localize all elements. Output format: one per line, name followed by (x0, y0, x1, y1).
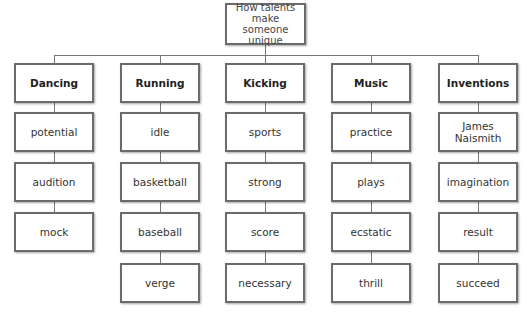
column-header-dancing: Dancing (14, 63, 94, 103)
tree-node: basketball (120, 162, 200, 202)
tree-node: audition (14, 162, 94, 202)
row-connector (265, 103, 266, 112)
row-connector (265, 202, 266, 212)
column-header-kicking: Kicking (225, 63, 305, 103)
tree-node: mock (14, 212, 94, 252)
row-connector (160, 252, 161, 263)
tree-node: result (438, 212, 518, 252)
tree-node: strong (225, 162, 305, 202)
column-connector (54, 55, 55, 63)
row-connector (478, 252, 479, 263)
row-connector (54, 152, 55, 162)
tree-node: practice (331, 112, 411, 152)
row-connector (478, 152, 479, 162)
row-connector (371, 103, 372, 112)
tree-node: plays (331, 162, 411, 202)
tree-node: imagination (438, 162, 518, 202)
column-connector (160, 55, 161, 63)
row-connector (371, 202, 372, 212)
row-connector (371, 152, 372, 162)
column-connector (265, 55, 266, 63)
tree-node: verge (120, 263, 200, 303)
row-connector (371, 252, 372, 263)
row-connector (265, 152, 266, 162)
tree-node: ecstatic (331, 212, 411, 252)
column-connector (478, 55, 479, 63)
column-header-music: Music (331, 63, 411, 103)
column-header-running: Running (120, 63, 200, 103)
row-connector (160, 152, 161, 162)
column-header-inventions: Inventions (438, 63, 518, 103)
tree-node: idle (120, 112, 200, 152)
tree-node: baseball (120, 212, 200, 252)
row-connector (478, 103, 479, 112)
row-connector (54, 103, 55, 112)
row-connector (160, 103, 161, 112)
tree-node: succeed (438, 263, 518, 303)
row-connector (160, 202, 161, 212)
root-node: How talents make someone unique (225, 3, 306, 45)
tree-node: potential (14, 112, 94, 152)
tree-node: thrill (331, 263, 411, 303)
row-connector (54, 202, 55, 212)
root-connector (265, 45, 266, 55)
tree-node: sports (225, 112, 305, 152)
tree-node: score (225, 212, 305, 252)
tree-node: James Naismith (438, 112, 518, 152)
horizontal-connector (54, 55, 479, 56)
tree-node: necessary (225, 263, 305, 303)
row-connector (265, 252, 266, 263)
row-connector (478, 202, 479, 212)
column-connector (371, 55, 372, 63)
